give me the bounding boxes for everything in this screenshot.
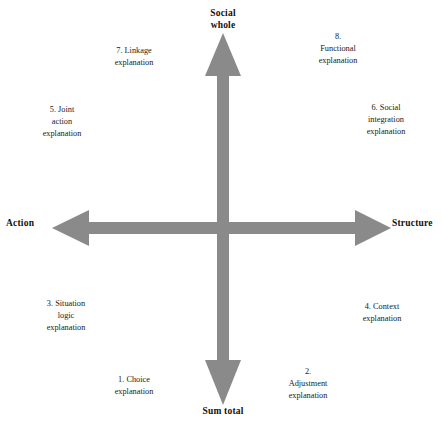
- vertical-axis-shaft: [217, 47, 229, 385]
- down-arrowhead: [205, 360, 241, 405]
- quadrant-label-8-functional-explanation: 8. Functional explanation: [282, 31, 394, 67]
- quadrant-label-2-adjustment-explanation: 2. Adjustment explanation: [252, 366, 364, 402]
- quadrant-label-7-linkage-explanation: 7. Linkage explanation: [78, 45, 190, 69]
- horizontal-axis-shaft: [74, 222, 374, 234]
- right-arrowhead: [355, 210, 391, 246]
- vertical-axis-arrow: [205, 33, 241, 405]
- pole-label-action: Action: [6, 218, 52, 230]
- quadrant-label-6-social-integration-explanation: 6. Social integration explanation: [330, 102, 442, 138]
- quadrant-label-4-context-explanation: 4. Context explanation: [326, 301, 438, 325]
- quadrant-label-5-joint-action-explanation: 5. Joint action explanation: [6, 104, 118, 140]
- pole-label-sum-total: Sum total: [178, 406, 268, 418]
- quadrant-label-1-choice-explanation: 1. Choice explanation: [78, 374, 190, 398]
- up-arrowhead: [205, 33, 241, 76]
- pole-label-structure: Structure: [392, 218, 442, 230]
- quadrant-label-3-situation-logic-explanation: 3. Situation logic explanation: [10, 298, 122, 334]
- diagram-canvas: Social whole Sum total Action Structure …: [0, 0, 442, 434]
- left-arrowhead: [52, 210, 89, 246]
- pole-label-social-whole: Social whole: [178, 8, 268, 32]
